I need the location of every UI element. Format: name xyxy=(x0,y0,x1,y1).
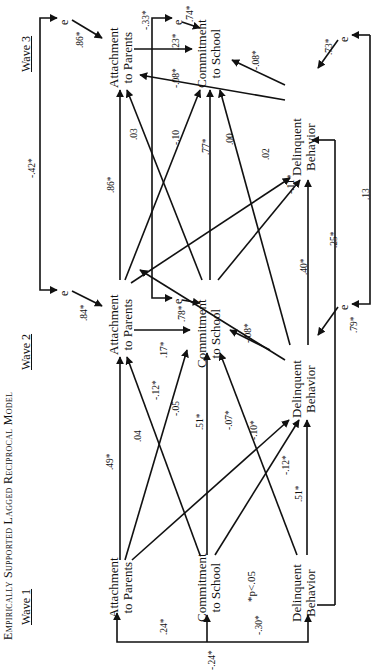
coef-cs2-db3: -.11* xyxy=(287,175,297,194)
coef-ap3-cs3: .23* xyxy=(172,33,182,50)
coef-ap2-db3: .02 xyxy=(262,148,272,160)
node-w1-delinquent-behavior: DelinquentBehavior xyxy=(290,564,318,622)
coef-ap1-cs2: -.12* xyxy=(152,380,162,400)
coef-w1-cs-db: -.30* xyxy=(255,615,265,635)
coef-db2-db3: .40* xyxy=(300,258,310,275)
coef-cs1-ap2: .04 xyxy=(134,430,144,442)
wave-label-1: Wave 1 xyxy=(20,589,32,625)
node-w1-attachment-to-parents: Attachmentto Parents xyxy=(107,557,135,618)
node-w3-delinquent-behavior: DelinquentBehavior xyxy=(290,118,318,176)
coef-w1-ap-db: -.24* xyxy=(208,650,218,670)
error-w2-db: e xyxy=(338,305,350,310)
node-w3-attachment-to-parents: Attachmentto Parents xyxy=(107,27,135,88)
node-w2-commitment-to-school: Commitmentto School xyxy=(195,299,223,368)
coef-cs2-ap3: .03 xyxy=(130,128,140,140)
coef-e-db3: .73* xyxy=(325,38,335,55)
coef-cs1-db2: -.10* xyxy=(250,420,260,440)
wave-label-2: Wave 2 xyxy=(20,334,32,370)
coef-w1-ap-cs: .24* xyxy=(160,618,170,635)
diagram-title: Empirically Supported Lagged Reciprocal … xyxy=(2,392,14,640)
error-w3-cs: e xyxy=(172,20,184,25)
node-w2-attachment-to-parents: Attachmentto Parents xyxy=(107,294,135,355)
coef-db1-cs2: -.12* xyxy=(282,455,292,475)
error-w2-ap: e xyxy=(58,291,70,296)
coef-e-ap3: .86* xyxy=(76,31,86,48)
error-w3-ap: e xyxy=(58,20,70,25)
significance-note: *p<.05 xyxy=(246,571,257,602)
coef-ap2-cs3: -.10 xyxy=(172,130,182,145)
coef-db3-cs3: -.08* xyxy=(252,50,262,70)
coef-e-db2: .79* xyxy=(350,316,360,333)
coef-ap2-ap3: .86* xyxy=(107,176,117,193)
coef-db1-db3: .25* xyxy=(330,231,340,248)
coef-db1-ap2: -.05 xyxy=(172,401,182,416)
error-w2-cs: e xyxy=(172,299,184,304)
path-diagram xyxy=(0,0,381,670)
coef-db1-db2: .51* xyxy=(295,485,305,502)
coef-e-ap2: .84* xyxy=(80,304,90,321)
coef-e-db2-e-db3: .13 xyxy=(362,188,372,200)
coef-e-cs3: .74* xyxy=(186,5,196,22)
coef-e-ap2-e-ap3: -.42* xyxy=(28,158,38,178)
node-w1-commitment-to-school: Commitmentto School xyxy=(195,553,223,622)
coef-db2-cs2: -.08* xyxy=(244,323,254,343)
coef-db2-ap3: .00 xyxy=(226,133,236,145)
coef-cs2-cs3: .77* xyxy=(202,138,212,155)
node-w2-delinquent-behavior: DelinquentBehavior xyxy=(290,360,318,418)
coef-ap2-cs2: .17* xyxy=(160,341,170,358)
wave-label-3: Wave 3 xyxy=(20,36,32,72)
coef-ap1-ap2: .49* xyxy=(106,453,116,470)
coef-e-cs2-e-cs3: -.33* xyxy=(142,10,152,30)
coef-db3-ap3: -.08* xyxy=(172,68,182,88)
coef-e-cs2: .78* xyxy=(178,305,188,322)
coef-ap1-db2: -.07* xyxy=(225,410,235,430)
coef-cs1-cs2: .51* xyxy=(196,413,206,430)
error-w3-db: e xyxy=(338,37,350,42)
node-w3-commitment-to-school: Commitmentto School xyxy=(195,19,223,88)
